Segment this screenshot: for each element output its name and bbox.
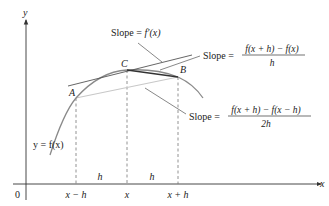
forward-slope-numerator: f(x + h) − f(x) (245, 44, 298, 55)
central-slope-denominator: 2h (261, 119, 271, 129)
tangent-slope-expr: f′(x) (144, 27, 161, 39)
point-label-b: B (180, 64, 186, 75)
forward-slope-denominator: h (270, 58, 275, 68)
point-label-c: C (121, 58, 128, 69)
leader-central (145, 88, 186, 114)
curve-label: y = f(x) (33, 139, 64, 151)
central-slope-prefix: Slope = (189, 111, 220, 122)
central-slope-numerator: f(x + h) − f(x − h) (231, 105, 300, 116)
y-axis-label: y (22, 7, 28, 18)
leader-tangent (138, 43, 162, 62)
function-curve (50, 70, 203, 155)
origin-label: 0 (15, 189, 20, 200)
interval-label-right-h: h (150, 171, 155, 182)
tick-label-x-plus-h: x + h (166, 189, 188, 200)
interval-label-left-h: h (98, 171, 103, 182)
point-label-a: A (68, 87, 76, 98)
derivative-approximation-diagram: y x 0 x − h x x + h h h A C B y = f(x) S… (0, 0, 329, 206)
tick-label-x: x (124, 189, 130, 200)
tangent-slope-label: Slope = f′(x) (111, 27, 161, 39)
forward-slope-prefix: Slope = (203, 50, 234, 61)
tangent-slope-prefix: Slope = (111, 27, 144, 38)
x-axis-label: x (319, 178, 325, 189)
tick-label-x-minus-h: x − h (64, 189, 86, 200)
